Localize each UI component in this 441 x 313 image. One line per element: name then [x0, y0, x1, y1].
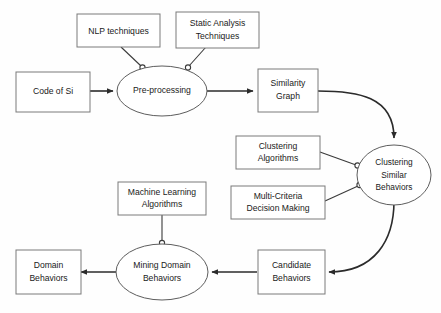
node-domain-behaviors-label-line1: Domain: [34, 260, 64, 270]
node-nlp-techniques[interactable]: NLP techniques: [77, 14, 160, 47]
node-candidate-behaviors-label-line2: Behaviors: [272, 273, 310, 283]
node-mining-domain-behaviors[interactable]: Mining Domain Behaviors: [116, 244, 208, 300]
node-mining-domain-behaviors-label-line2: Behaviors: [143, 273, 181, 283]
node-clustering-algorithms-label-line1: Clustering: [259, 141, 298, 151]
node-clustering-algorithms[interactable]: Clustering Algorithms: [236, 136, 320, 169]
node-clustering-similar-behaviors-label-line3: Behaviors: [376, 182, 413, 192]
connector-dot-static: [185, 65, 190, 70]
node-mining-domain-behaviors-label-line1: Mining Domain: [133, 260, 191, 270]
node-nlp-techniques-label-line1: NLP techniques: [88, 26, 149, 36]
node-pre-processing-label-line1: Pre-processing: [133, 85, 191, 95]
node-code-of-si[interactable]: Code of Si: [16, 72, 90, 112]
node-similarity-graph[interactable]: Similarity Graph: [258, 69, 318, 112]
node-code-of-si-label-line1: Code of Si: [33, 86, 73, 96]
edge-clustersim-to-candidate: [329, 201, 394, 272]
diagram-canvas: NLP techniques Static Analysis Technique…: [0, 0, 441, 313]
edge-static-to-preprocessing: [189, 47, 206, 66]
node-candidate-behaviors-label-line1: Candidate: [272, 260, 311, 270]
node-multi-criteria-decision-making-label-line2: Decision Making: [246, 203, 309, 213]
edge-nlp-to-preprocessing: [121, 47, 141, 66]
node-static-analysis-techniques-label-line2: Techniques: [196, 31, 239, 41]
node-pre-processing[interactable]: Pre-processing: [117, 66, 207, 116]
edge-simgraph-to-clustersim: [318, 91, 394, 138]
node-machine-learning-algorithms-label-line2: Algorithms: [142, 199, 183, 209]
node-static-analysis-techniques[interactable]: Static Analysis Techniques: [176, 12, 259, 48]
edge-clusteralg-to-clustersim: [320, 152, 356, 165]
node-multi-criteria-decision-making[interactable]: Multi-Criteria Decision Making: [231, 186, 325, 219]
node-similarity-graph-label-line2: Graph: [276, 91, 300, 101]
edge-mcdm-to-clustersim: [325, 186, 358, 201]
node-similarity-graph-label-line1: Similarity: [271, 78, 307, 88]
node-clustering-similar-behaviors-label-line2: Similar: [381, 170, 407, 180]
node-domain-behaviors-label-line2: Behaviors: [29, 273, 67, 283]
node-machine-learning-algorithms-label-line1: Machine Learning: [128, 187, 197, 197]
node-mining-domain-behaviors-shape: [116, 244, 208, 300]
node-domain-behaviors[interactable]: Domain Behaviors: [16, 250, 81, 294]
node-clustering-similar-behaviors-label-line1: Clustering: [375, 157, 413, 167]
node-machine-learning-algorithms[interactable]: Machine Learning Algorithms: [118, 182, 206, 215]
flowchart-svg: NLP techniques Static Analysis Technique…: [0, 0, 441, 313]
node-clustering-similar-behaviors[interactable]: Clustering Similar Behaviors: [357, 145, 431, 205]
node-clustering-algorithms-label-line2: Algorithms: [258, 153, 299, 163]
node-multi-criteria-decision-making-label-line1: Multi-Criteria: [254, 191, 303, 201]
node-candidate-behaviors[interactable]: Candidate Behaviors: [258, 250, 325, 294]
node-static-analysis-techniques-label-line1: Static Analysis: [190, 18, 245, 28]
